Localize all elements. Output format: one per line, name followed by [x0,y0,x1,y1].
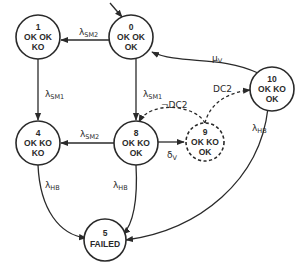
node-8-line1: OK KO [122,138,150,148]
node-10-line1: OK KO [258,84,286,94]
node-4: 4 OK KO KO [16,121,60,165]
node-10-line2: OK [266,94,280,104]
label-10-5: λHB [252,123,267,135]
label-9-10: DC2 [213,84,232,94]
label-9-8: ¬DC2 [161,100,187,110]
node-9-line2: OK [199,147,213,157]
node-5-line1: FAILED [90,239,120,249]
label-8-4: λSM2 [80,129,99,141]
label-0-8: λSM1 [143,89,162,101]
node-0-line1: OK OK [117,32,146,42]
edge-10-0 [152,52,258,73]
initial-arrow [110,3,122,17]
node-4-line2: KO [32,148,45,158]
edge-8-5 [123,165,136,234]
label-1-4: λSM1 [45,89,64,101]
node-8-id: 8 [134,128,139,138]
node-1-id: 1 [36,22,41,32]
node-4-line1: OK KO [24,138,52,148]
node-0: 0 OK OK OK [109,15,153,59]
node-8-line2: OK [130,148,144,158]
state-diagram: λSM2 λSM1 λSM1 λSM2 δV ¬DC2 DC2 μV λHB λ… [0,0,305,269]
node-5: 5 FAILED [84,219,126,261]
node-9-id: 9 [203,127,208,137]
node-4-id: 4 [36,128,41,138]
node-1-line2: KO [32,42,45,52]
node-9: 9 OK KO OK [186,123,224,161]
node-10-id: 10 [267,74,277,84]
label-8-9: δV [167,150,178,162]
node-5-id: 5 [103,228,108,238]
label-0-1: λSM2 [79,27,98,39]
edge-4-5 [38,165,86,238]
node-0-id: 0 [129,22,134,32]
label-4-5: λHB [45,180,60,192]
label-10-0: μV [212,53,223,65]
node-8: 8 OK KO OK [114,121,158,165]
node-1: 1 OK OK KO [16,15,60,59]
label-8-5: λHB [113,180,128,192]
node-10: 10 OK KO OK [250,67,294,111]
node-1-line1: OK OK [24,32,53,42]
edge-9-10 [205,90,250,123]
node-0-line2: OK [125,42,139,52]
node-9-line1: OK KO [191,137,219,147]
